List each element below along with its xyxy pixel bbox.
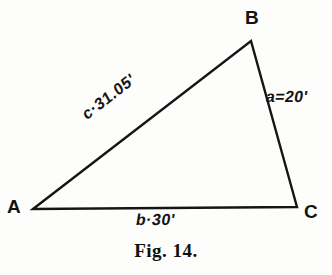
triangle-outline	[33, 41, 297, 209]
side-label-b: b·30'	[135, 212, 177, 228]
vertex-label-a: A	[7, 197, 21, 216]
triangle-diagram	[0, 0, 332, 275]
vertex-label-b: B	[245, 8, 259, 27]
vertex-label-c: C	[304, 202, 318, 221]
figure-caption: Fig. 14.	[0, 240, 332, 262]
figure-container: A B C c·31.05' a=20' b·30' Fig. 14.	[0, 0, 332, 275]
side-label-a: a=20'	[265, 89, 309, 105]
